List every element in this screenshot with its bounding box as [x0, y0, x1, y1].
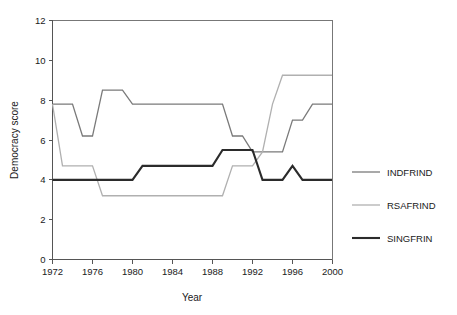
legend-label-rsafrind: RSAFRIND — [387, 200, 436, 211]
y-axis-tick-label: 10 — [35, 55, 46, 66]
chart-figure: 0246810121972197619801984198819921996200… — [0, 0, 457, 315]
axes-group: 0246810121972197619801984198819921996200… — [35, 15, 343, 277]
y-axis-tick-label: 2 — [40, 214, 45, 225]
y-axis-tick-label: 0 — [40, 254, 45, 265]
plot-frame — [53, 21, 333, 260]
x-axis-tick-label: 1980 — [122, 266, 143, 277]
legend-label-indfrind: INDFRIND — [387, 167, 433, 178]
y-axis-tick-label: 6 — [40, 135, 45, 146]
x-axis-tick-label: 1984 — [162, 266, 183, 277]
series-line-rsafrind — [53, 75, 333, 196]
y-axis-title: Democracy score — [9, 101, 20, 179]
y-axis-tick-label: 8 — [40, 95, 45, 106]
line-chart-canvas: 0246810121972197619801984198819921996200… — [0, 0, 457, 315]
y-axis-tick-label: 12 — [35, 15, 46, 26]
x-axis-tick-label: 2000 — [322, 266, 343, 277]
x-axis-title: Year — [182, 292, 203, 303]
series-group — [53, 75, 333, 196]
series-line-indfrind — [53, 90, 333, 152]
series-line-singfrin — [53, 150, 333, 180]
x-axis-tick-label: 1992 — [242, 266, 263, 277]
chart-legend: INDFRINDRSAFRINDSINGFRIN — [352, 167, 436, 244]
x-axis-tick-label: 1976 — [82, 266, 103, 277]
y-axis-tick-label: 4 — [40, 174, 45, 185]
x-axis-tick-label: 1988 — [202, 266, 223, 277]
x-axis-tick-label: 1972 — [42, 266, 63, 277]
x-axis-tick-label: 1996 — [282, 266, 303, 277]
legend-label-singfrin: SINGFRIN — [387, 233, 433, 244]
